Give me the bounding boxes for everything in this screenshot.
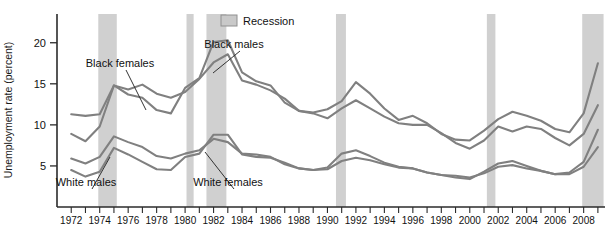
x-tick-label-2004: 2004 [516, 215, 539, 226]
recession-band-5 [487, 14, 496, 207]
y-axis-title: Unemployment rate (percent) [2, 42, 14, 179]
x-tick-label-1992: 1992 [345, 215, 368, 226]
x-tick-label-1984: 1984 [231, 215, 254, 226]
x-tick-label-2000: 2000 [459, 215, 482, 226]
legend: Recession [221, 15, 294, 27]
x-tick-label-1986: 1986 [259, 215, 282, 226]
unemployment-rate-chart: 5101520 19721974197619781980198219841986… [0, 0, 608, 234]
x-tick-label-2006: 2006 [544, 215, 567, 226]
x-tick-label-1998: 1998 [430, 215, 453, 226]
plot-background [57, 14, 605, 207]
y-tick-label-15: 15 [34, 78, 46, 90]
annotation-label-black-males: Black males [204, 38, 264, 50]
x-tick-label-1976: 1976 [117, 215, 140, 226]
x-tick-label-2008: 2008 [573, 215, 596, 226]
x-tick-label-1988: 1988 [288, 215, 311, 226]
legend-recession-swatch [221, 15, 237, 26]
y-tick-label-20: 20 [34, 37, 46, 49]
x-tick-label-2002: 2002 [487, 215, 510, 226]
chart-canvas: 5101520 19721974197619781980198219841986… [0, 0, 608, 234]
x-tick-label-1990: 1990 [316, 215, 339, 226]
annotation-label-black-females: Black females [86, 57, 155, 69]
x-axis-ticks-group: 1972197419761978198019821984198619881990… [60, 207, 598, 226]
annotation-label-white-males: White males [56, 176, 117, 188]
x-tick-label-1980: 1980 [174, 215, 197, 226]
y-tick-label-10: 10 [34, 119, 46, 131]
legend-recession-label: Recession [243, 15, 294, 27]
y-axis-ticks-group: 5101520 [34, 37, 57, 172]
x-tick-label-1974: 1974 [89, 215, 112, 226]
annotation-label-white-females: White females [193, 176, 263, 188]
y-tick-label-5: 5 [40, 160, 46, 172]
x-tick-label-1972: 1972 [60, 215, 83, 226]
x-tick-label-1982: 1982 [202, 215, 225, 226]
x-tick-label-1996: 1996 [402, 215, 425, 226]
x-tick-label-1994: 1994 [373, 215, 396, 226]
x-tick-label-1978: 1978 [146, 215, 169, 226]
